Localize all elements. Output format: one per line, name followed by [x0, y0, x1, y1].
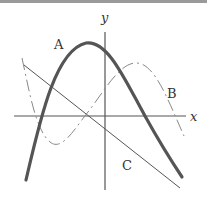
y-axis-label: y	[100, 10, 109, 25]
curve-a-parabola	[26, 43, 182, 180]
curve-c-line	[24, 65, 180, 188]
curve-c-label: C	[122, 158, 132, 173]
curve-b-label: B	[167, 86, 177, 101]
graph-canvas: x y A B C	[0, 0, 207, 201]
x-axis-label: x	[190, 109, 198, 124]
curve-a-label: A	[53, 37, 64, 52]
